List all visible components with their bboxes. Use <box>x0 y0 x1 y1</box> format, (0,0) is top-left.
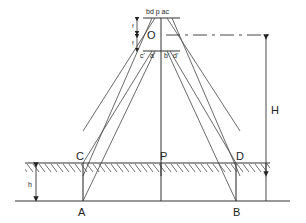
label-D: D <box>236 150 244 162</box>
label-h: h <box>28 181 32 188</box>
label-A: A <box>78 206 86 218</box>
label-d-prime: d' <box>173 52 178 59</box>
label-a-prime: a' <box>150 52 155 59</box>
label-B: B <box>233 206 240 218</box>
diagram-canvas: O f f bd p ac c' a' b' d' H h C P D A B <box>0 0 306 223</box>
label-c-prime: c' <box>140 52 145 59</box>
label-top-image-points: bd p ac <box>146 8 169 16</box>
terrain-hatching <box>25 164 270 172</box>
label-b-prime: b' <box>164 52 169 59</box>
label-f-top: f <box>132 23 134 29</box>
label-H: H <box>271 104 279 116</box>
label-O: O <box>147 29 156 41</box>
relief-displacement-diagram: O f f bd p ac c' a' b' d' H h C P D A B <box>0 0 306 223</box>
label-C: C <box>76 150 84 162</box>
label-f-bottom: f <box>132 40 134 46</box>
label-P: P <box>160 150 167 162</box>
ground-ray-lines <box>83 51 236 201</box>
